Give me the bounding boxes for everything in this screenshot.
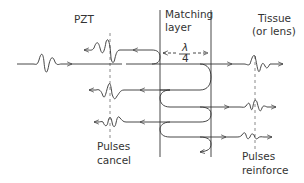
pulses-cancel-line2: cancel <box>97 154 131 166</box>
matching-label: Matching <box>165 8 213 20</box>
second-transmitted-pulse <box>211 100 276 111</box>
layer-label: layer <box>165 21 192 33</box>
first-reflection-pulse <box>84 40 160 64</box>
or-lens-label: (or lens) <box>252 25 296 37</box>
pzt-label: PZT <box>74 13 95 25</box>
third-reflection-pulse <box>94 117 160 127</box>
third-transmitted-pulse <box>211 133 272 139</box>
quarter-wavelength-indicator: λ 4 <box>163 41 208 64</box>
pulses-reinforce-line2: reinforce <box>242 164 289 176</box>
transmitted-path <box>160 55 283 71</box>
internal-reflections <box>160 64 211 152</box>
pulses-cancel-line1: Pulses <box>97 140 130 152</box>
second-reflection-pulse <box>89 84 160 99</box>
matching-layer-diagram: PZT Matching layer Tissue (or lens) λ 4 <box>0 0 304 183</box>
four-label: 4 <box>182 52 189 64</box>
pulses-reinforce-line1: Pulses <box>242 150 275 162</box>
tissue-label: Tissue <box>257 12 291 24</box>
incident-pulse <box>17 54 160 72</box>
